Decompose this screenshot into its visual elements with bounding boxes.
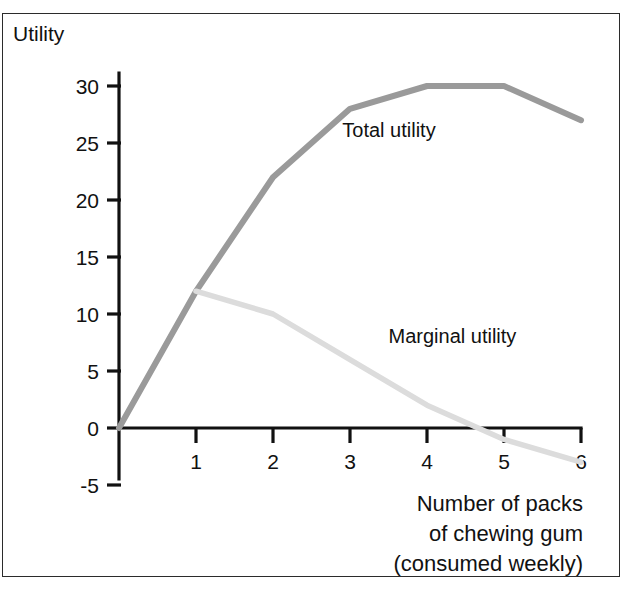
x-axis-caption-line-2: of chewing gum [429,521,583,546]
x-axis-caption-line-3: (consumed weekly) [393,551,583,576]
y-tick-label-30: 30 [76,75,99,98]
x-tick-label-4: 4 [421,450,433,473]
x-tick-label-2: 2 [267,450,279,473]
y-tick-label-15: 15 [76,246,99,269]
x-axis-caption: Number of packsof chewing gum(consumed w… [393,491,583,576]
series-label-total-utility: Total utility [342,119,435,141]
x-tick-label-3: 3 [344,450,356,473]
y-axis-title: Utility [13,22,65,45]
x-tick-label-1: 1 [190,450,202,473]
y-tick-label-25: 25 [76,132,99,155]
x-tick-label-5: 5 [498,450,510,473]
x-tick-group: 123456 [190,428,587,473]
x-axis-caption-line-1: Number of packs [417,491,583,516]
y-tick-label-0: 0 [87,417,99,440]
series-group [119,86,581,462]
series-label-marginal-utility: Marginal utility [389,325,517,347]
series-label-group: Total utilityMarginal utility [342,119,516,346]
utility-line-chart: Utility 302520151050-5 123456 Total util… [3,14,621,578]
y-tick-label-5: 5 [87,360,99,383]
y-tick-label-20: 20 [76,189,99,212]
series-line-marginal-utility [196,291,581,462]
y-tick-group: 302520151050-5 [76,75,121,497]
y-tick-label--5: -5 [80,474,99,497]
y-tick-label-10: 10 [76,303,99,326]
figure-frame: Utility 302520151050-5 123456 Total util… [2,13,620,577]
